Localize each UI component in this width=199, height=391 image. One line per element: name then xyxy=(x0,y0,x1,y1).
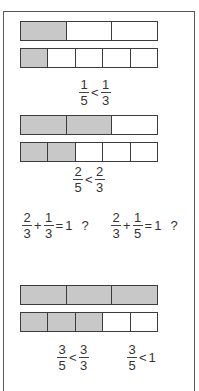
fraction: 1 3 xyxy=(44,211,54,240)
numerator: 3 xyxy=(127,343,136,356)
fraction: 3 5 xyxy=(127,343,137,372)
bar-thirds-2-filled xyxy=(20,115,158,135)
rhs-value: 1 xyxy=(149,350,156,365)
bar-segment-filled xyxy=(21,313,48,331)
numerator: 1 xyxy=(101,78,110,91)
equals-sign: = xyxy=(145,218,153,233)
bar-segment xyxy=(76,49,103,67)
bar-segment xyxy=(103,49,130,67)
bar-thirds-1-filled xyxy=(20,21,158,41)
less-than-sign: < xyxy=(69,350,77,365)
numerator: 2 xyxy=(73,165,82,178)
bar-fifths-1-filled xyxy=(20,48,158,68)
bar-segment-filled xyxy=(21,49,48,67)
bar-segment-filled xyxy=(48,143,75,161)
fraction: 1 5 xyxy=(79,78,89,107)
bar-segment-filled xyxy=(21,143,48,161)
fraction: 1 3 xyxy=(101,78,111,107)
bar-segment xyxy=(112,22,157,40)
numerator: 1 xyxy=(79,78,88,91)
bar-segment xyxy=(103,143,130,161)
denominator: 3 xyxy=(111,227,120,240)
bar-segment-filled xyxy=(67,286,113,304)
numerator: 2 xyxy=(111,211,120,224)
bar-segment xyxy=(131,49,157,67)
less-than-sign: < xyxy=(91,85,99,100)
numerator: 1 xyxy=(133,211,142,224)
fraction: 1 5 xyxy=(133,211,143,240)
plus-sign: + xyxy=(123,218,131,233)
fraction: 3 5 xyxy=(57,343,67,372)
numerator: 3 xyxy=(79,343,88,356)
expression-3-5-lt-3-3: 3 5 < 3 3 xyxy=(56,343,90,372)
denominator: 3 xyxy=(101,94,110,107)
expression-2-5-lt-2-3: 2 5 < 2 3 xyxy=(72,165,106,194)
numerator: 2 xyxy=(22,211,31,224)
fraction: 2 3 xyxy=(95,165,105,194)
less-than-sign: < xyxy=(139,350,147,365)
denominator: 5 xyxy=(73,181,82,194)
diagram-frame xyxy=(3,11,195,391)
numerator: 2 xyxy=(95,165,104,178)
denominator: 5 xyxy=(133,227,142,240)
bar-segment-filled xyxy=(76,313,103,331)
denominator: 5 xyxy=(57,359,66,372)
bar-fifths-3-filled xyxy=(20,312,158,332)
bar-segment xyxy=(76,143,103,161)
fraction: 3 3 xyxy=(79,343,89,372)
rhs-value: 1 xyxy=(65,218,72,233)
bar-segment-filled xyxy=(21,286,67,304)
less-than-sign: < xyxy=(85,172,93,187)
fraction: 2 5 xyxy=(73,165,83,194)
bar-segment-filled xyxy=(48,313,75,331)
bar-segment xyxy=(131,143,157,161)
bar-segment-filled xyxy=(67,116,113,134)
equals-sign: = xyxy=(56,218,64,233)
expression-3-5-lt-1: 3 5 < 1 xyxy=(126,343,157,372)
question-mark: ? xyxy=(170,218,177,233)
denominator: 3 xyxy=(95,181,104,194)
bar-segment xyxy=(67,22,113,40)
denominator: 5 xyxy=(79,94,88,107)
plus-sign: + xyxy=(34,218,42,233)
bar-segment xyxy=(103,313,130,331)
bar-segment xyxy=(131,313,157,331)
fraction: 2 3 xyxy=(111,211,121,240)
bar-segment-filled xyxy=(112,286,157,304)
bar-segment xyxy=(112,116,157,134)
bar-fifths-2-filled xyxy=(20,142,158,162)
denominator: 3 xyxy=(79,359,88,372)
expression-1-5-lt-1-3: 1 5 < 1 3 xyxy=(78,78,112,107)
bar-segment xyxy=(48,49,75,67)
bar-segment-filled xyxy=(21,116,67,134)
fraction: 2 3 xyxy=(22,211,32,240)
expression-2-3-plus-1-5: 2 3 + 1 5 = 1 ? xyxy=(110,211,179,240)
numerator: 1 xyxy=(44,211,53,224)
numerator: 3 xyxy=(57,343,66,356)
bar-thirds-3-filled xyxy=(20,285,158,305)
question-mark: ? xyxy=(81,218,88,233)
rhs-value: 1 xyxy=(154,218,161,233)
denominator: 3 xyxy=(22,227,31,240)
bar-segment-filled xyxy=(21,22,67,40)
expression-2-3-plus-1-3: 2 3 + 1 3 = 1 ? xyxy=(21,211,90,240)
denominator: 5 xyxy=(127,359,136,372)
denominator: 3 xyxy=(44,227,53,240)
